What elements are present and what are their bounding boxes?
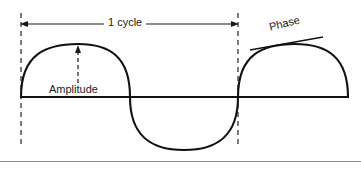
cycle-label: 1 cycle (104, 17, 146, 28)
phase-tangent-line (250, 37, 323, 50)
page-bottom-rule (0, 161, 361, 162)
amplitude-arrowhead (75, 45, 81, 53)
sine-wave-figure: 1 cycle Amplitude Phase (0, 0, 361, 172)
amplitude-label: Amplitude (47, 84, 100, 95)
